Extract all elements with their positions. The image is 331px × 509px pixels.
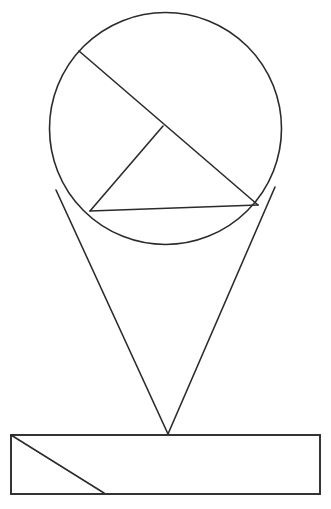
cone-right-edge: [168, 187, 275, 434]
geometric-figure: [0, 0, 331, 509]
lower-horizontal-chord: [90, 205, 258, 211]
short-perpendicular-segment: [90, 126, 163, 211]
cone-left-edge: [56, 190, 168, 434]
circle-outline: [50, 13, 282, 245]
figure-canvas: [0, 0, 331, 509]
long-diagonal-chord: [79, 51, 258, 205]
rectangle-diagonal: [11, 435, 104, 493]
